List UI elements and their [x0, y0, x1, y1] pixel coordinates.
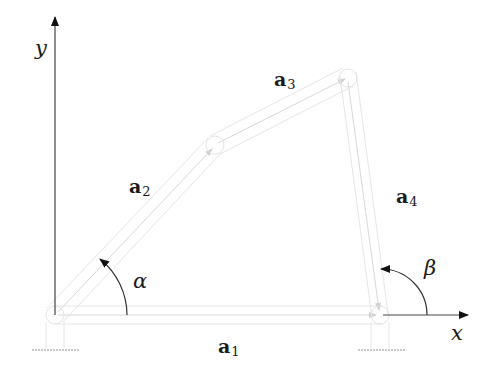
label-a3-subscript: 3 — [287, 77, 295, 92]
y-axis-label: y — [35, 38, 47, 59]
four-bar-linkage-diagram: y x a1 a2 a3 a4 α β — [0, 0, 491, 371]
label-a3-base: a — [274, 68, 286, 90]
beta-label: β — [424, 258, 436, 279]
label-a4: a4 — [396, 187, 418, 208]
label-a1-base: a — [218, 335, 230, 357]
label-a4-subscript: 4 — [409, 194, 417, 209]
link-a2 — [47, 138, 222, 322]
beta-arc — [381, 269, 427, 315]
diagram-graphics — [0, 0, 491, 371]
label-a3: a3 — [274, 70, 296, 91]
link-a1 — [55, 306, 382, 324]
label-a2: a2 — [129, 177, 151, 198]
label-a1: a1 — [218, 337, 240, 358]
label-a2-base: a — [129, 175, 141, 197]
x-axis-label: x — [451, 323, 463, 344]
alpha-label: α — [133, 271, 147, 292]
link-a4 — [340, 72, 388, 318]
label-a4-base: a — [396, 185, 408, 207]
label-a2-subscript: 2 — [142, 184, 150, 199]
joint-a2-a3 — [206, 136, 224, 154]
label-a1-subscript: 1 — [231, 344, 239, 359]
